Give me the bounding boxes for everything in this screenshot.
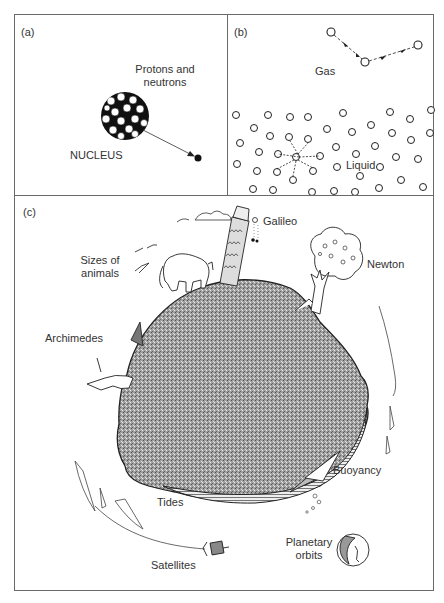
cloud-icon	[177, 211, 231, 222]
panel-c: (c)	[14, 195, 434, 591]
buoyancy-label: Buoyancy	[333, 464, 381, 477]
planetary-orbit-icon	[337, 534, 369, 566]
satellite-icon	[203, 541, 229, 556]
satellite-orbit	[95, 506, 205, 549]
gas-liquid-illustration	[228, 15, 435, 197]
newton-label: Newton	[367, 258, 404, 271]
nucleus-illustration	[15, 15, 229, 197]
elephant-icon	[160, 254, 213, 292]
planetary-orbits-label: Planetary orbits	[279, 536, 339, 562]
nucleus-icon	[101, 92, 149, 140]
archimedes-label: Archimedes	[45, 332, 103, 345]
tower-of-pisa-icon	[220, 206, 249, 286]
sizes-of-animals-label: Sizes of animals	[77, 254, 123, 280]
gas-molecules	[327, 28, 422, 66]
galileo-figure	[253, 218, 258, 223]
particle-icon	[195, 155, 202, 162]
liquid-molecules	[233, 107, 435, 196]
tides-label: Tides	[157, 496, 184, 509]
satellites-label: Satellites	[151, 559, 196, 572]
falling-balls-icon	[251, 238, 258, 242]
panel-a: (a) Protons and neutrons NUCLEUS	[14, 14, 228, 196]
bird-icons	[135, 245, 157, 273]
panel-b: (b) Gas Liquid	[227, 14, 434, 196]
galileo-label: Galileo	[263, 215, 297, 228]
